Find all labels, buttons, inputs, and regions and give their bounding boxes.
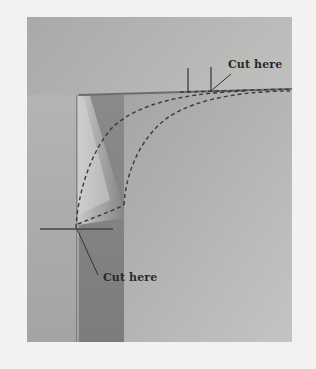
left-cut-label: Cut here [103,271,157,284]
top-cut-label: Cut here [228,58,282,71]
photo-illustration [0,0,316,369]
diagram-figure: Cut here Cut here [0,0,316,369]
shelf-face [124,89,292,342]
left-wall [27,95,76,342]
